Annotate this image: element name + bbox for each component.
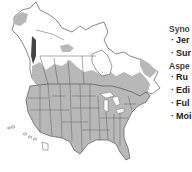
legend-item: Moi [169,112,192,125]
legend: Syno Jer Sur Aspe Ru Edi Ful Moi [169,25,192,125]
range-map [0,0,162,172]
